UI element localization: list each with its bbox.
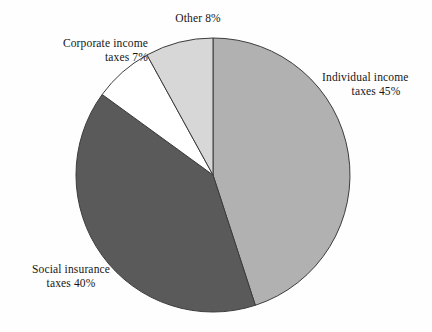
- slice-label-corporate-line2: taxes 7%: [18, 50, 148, 64]
- slice-label-social-insurance-taxes: Social insurance taxes 40%: [8, 262, 134, 290]
- slice-label-social-line1: Social insurance: [8, 262, 134, 276]
- slice-label-individual-line1: Individual income: [322, 70, 430, 84]
- slice-label-individual-line2: taxes 45%: [322, 84, 430, 98]
- slice-label-individual-income-taxes: Individual income taxes 45%: [322, 70, 430, 98]
- slice-label-other-line1: Other 8%: [143, 11, 253, 25]
- slice-label-corporate-line1: Corporate income: [18, 36, 148, 50]
- pie-chart-figure: Other 8% Corporate income taxes 7% Indiv…: [0, 0, 432, 332]
- slice-label-social-line2: taxes 40%: [8, 276, 134, 290]
- slice-label-corporate-income-taxes: Corporate income taxes 7%: [18, 36, 148, 64]
- slice-label-other: Other 8%: [143, 11, 253, 25]
